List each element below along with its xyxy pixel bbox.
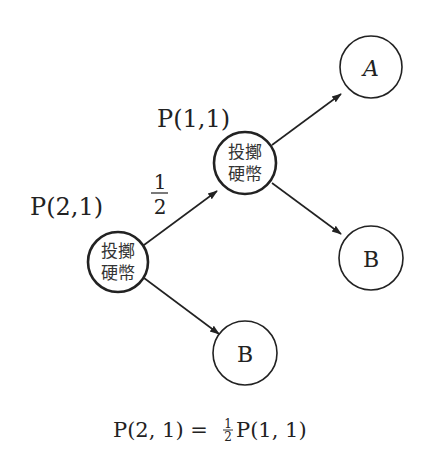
fraction-denominator: 2 bbox=[154, 195, 167, 219]
outcome-label: B bbox=[363, 247, 379, 272]
equation-frac-num: 1 bbox=[224, 417, 232, 431]
recurrence-equation: P(2, 1) = 1 2 P(1, 1) bbox=[113, 417, 307, 444]
outcome-b-top-node: B bbox=[339, 226, 403, 290]
outcome-label: A bbox=[361, 56, 379, 81]
probability-tree-diagram: 投擲 硬幣 投擲 硬幣 A B B P(2,1) P(1,1) 1 2 P(2,… bbox=[0, 0, 433, 465]
edge-coin2-to-top-b bbox=[272, 183, 341, 234]
node-label-line2: 硬幣 bbox=[101, 263, 135, 283]
outcome-a-node: A bbox=[340, 36, 402, 98]
state-label-p11: P(1,1) bbox=[157, 105, 230, 133]
coin-toss-node-2: 投擲 硬幣 bbox=[214, 132, 276, 194]
node-label-line1: 投擲 bbox=[101, 241, 135, 261]
edge-coin1-to-bottom-b bbox=[144, 278, 219, 334]
node-label-line2: 硬幣 bbox=[228, 164, 262, 184]
edge-coin2-to-a bbox=[272, 94, 341, 145]
fraction-numerator: 1 bbox=[154, 170, 167, 194]
equation-lhs: P(2, 1) = bbox=[113, 418, 208, 442]
coin-toss-node-1: 投擲 硬幣 bbox=[88, 232, 148, 292]
equation-frac-den: 2 bbox=[224, 430, 232, 444]
edge-probability-fraction: 1 2 bbox=[151, 170, 168, 219]
state-label-p21: P(2,1) bbox=[30, 193, 103, 221]
outcome-b-bottom-node: B bbox=[213, 321, 277, 385]
equation-rhs: P(1, 1) bbox=[236, 418, 307, 442]
node-label-line1: 投擲 bbox=[228, 142, 262, 162]
outcome-label: B bbox=[237, 342, 253, 367]
